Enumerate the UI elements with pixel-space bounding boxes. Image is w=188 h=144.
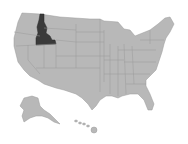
us-map [0,0,188,144]
alaska [20,96,60,124]
hawaii [75,120,98,133]
